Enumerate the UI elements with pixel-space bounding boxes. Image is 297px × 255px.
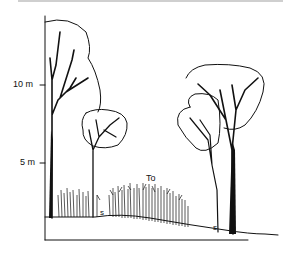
left-tall-tree-crown [45, 20, 101, 112]
label-tall-scrub: To [146, 174, 156, 183]
label-shrub-right: s [213, 224, 217, 232]
label-shrub-left: s [100, 209, 104, 217]
right-mid-tree-trunk [190, 118, 218, 232]
scrub-layer [58, 183, 188, 227]
axis-label-5m: 5 m [20, 158, 35, 167]
ground-line [45, 215, 278, 235]
right-tall-tree-trunk [198, 78, 258, 234]
left-small-tree-crown [82, 109, 127, 147]
axis-label-10m: 10 m [13, 80, 33, 89]
forest-profile-drawing [0, 0, 297, 255]
left-small-tree-trunk [89, 118, 119, 217]
